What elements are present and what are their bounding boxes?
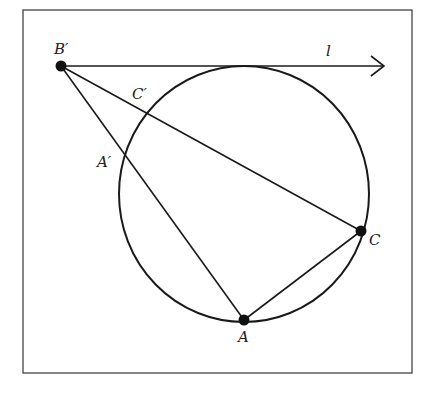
label-b-prime: B′ — [53, 40, 69, 58]
label-l: l — [326, 42, 331, 60]
label-a-prime: A′ — [95, 153, 112, 171]
geometry-diagram: B′ C′ A′ C A l — [0, 0, 427, 393]
label-c: C — [369, 231, 381, 249]
point-a — [239, 315, 250, 326]
label-c-prime: C′ — [132, 85, 147, 103]
circle — [119, 66, 369, 322]
label-a: A — [236, 328, 249, 346]
segment-b-prime-c — [61, 66, 361, 231]
point-c — [356, 226, 367, 237]
point-b-prime — [56, 61, 67, 72]
